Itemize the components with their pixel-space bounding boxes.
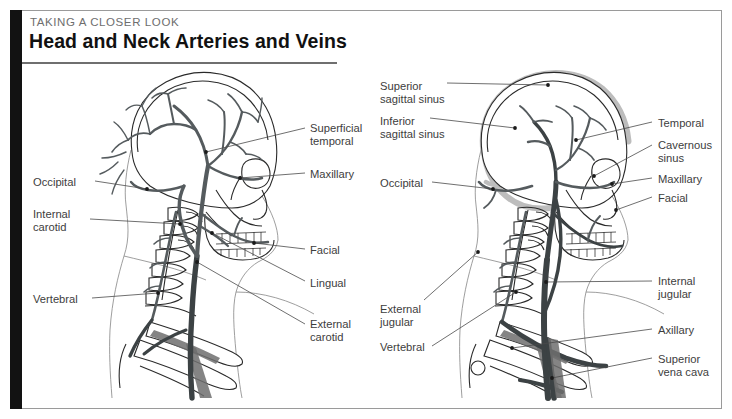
label-vertebral-vein: Vertebral — [380, 341, 425, 354]
label-internal-jugular: Internal jugular — [658, 275, 695, 300]
label-axillary: Axillary — [658, 324, 694, 337]
label-external-jugular: External jugular — [380, 303, 421, 328]
label-maxillary-vein: Maxillary — [658, 173, 702, 186]
label-maxillary: Maxillary — [310, 168, 354, 181]
eyebrow-text: TAKING A CLOSER LOOK — [30, 16, 179, 28]
label-temporal: Temporal — [658, 117, 704, 130]
label-superior-sagittal-sinus: Superior sagittal sinus — [380, 80, 445, 105]
spine-bar — [10, 10, 22, 409]
label-occipital-vein: Occipital — [380, 177, 423, 190]
figure-page: TAKING A CLOSER LOOK Head and Neck Arter… — [0, 0, 732, 419]
label-superior-vena-cava: Superior vena cava — [658, 353, 709, 378]
label-cavernous-sinus: Cavernous sinus — [658, 139, 712, 164]
label-superficial-temporal: Superficial temporal — [310, 122, 362, 147]
label-internal-carotid: Internal carotid — [33, 208, 70, 233]
page-title: Head and Neck Arteries and Veins — [29, 30, 347, 53]
label-occipital: Occipital — [33, 176, 76, 189]
label-facial: Facial — [310, 244, 340, 257]
page-frame — [10, 10, 722, 409]
label-lingual: Lingual — [310, 277, 346, 290]
title-divider — [22, 62, 337, 64]
label-external-carotid: External carotid — [310, 318, 351, 343]
label-vertebral: Vertebral — [33, 293, 78, 306]
label-facial-vein: Facial — [658, 192, 688, 205]
label-inferior-sagittal-sinus: Inferior sagittal sinus — [380, 115, 445, 140]
